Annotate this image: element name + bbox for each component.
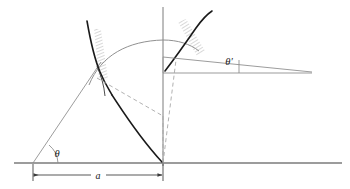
launch-ray — [33, 62, 101, 163]
right-wavefront-curve — [165, 11, 212, 71]
dashed-lines-group — [97, 60, 176, 163]
label-impact-angle: θ′ — [225, 56, 233, 67]
right-hatch-band — [178, 19, 205, 56]
dashed-chord — [97, 78, 163, 116]
left-wavefront-tail — [112, 95, 162, 162]
impact-angle-group — [163, 57, 312, 73]
diagram-canvas: θ θ′ a — [0, 0, 350, 189]
dashed-radius-upper — [163, 60, 176, 163]
figure-root: θ θ′ a — [0, 0, 350, 189]
label-launch-angle: θ — [54, 148, 59, 159]
launch-ray-group — [33, 62, 101, 163]
right-wavefront-curve-group — [165, 11, 212, 71]
impact-sloped-ray — [163, 57, 312, 72]
label-range-dimension: a — [96, 170, 101, 181]
